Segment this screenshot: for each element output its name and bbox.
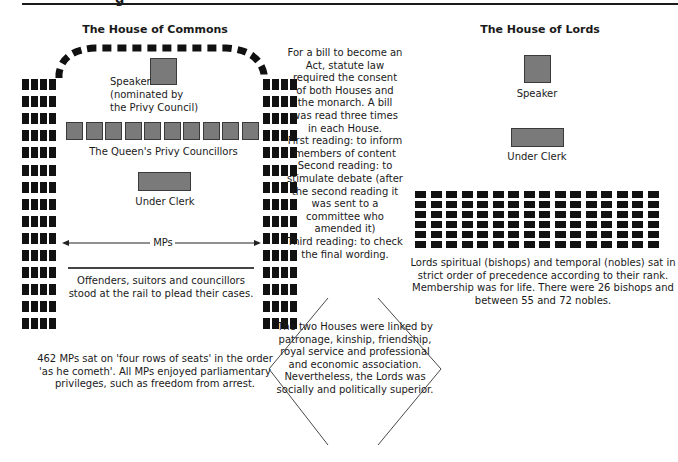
lord-seat xyxy=(493,231,504,238)
lord-seat xyxy=(648,231,659,238)
lord-seat xyxy=(462,231,473,238)
lord-seat xyxy=(570,191,581,198)
lord-seat xyxy=(477,211,488,218)
lord-seat xyxy=(601,221,612,228)
lord-seat xyxy=(601,201,612,208)
lord-seat xyxy=(617,231,628,238)
lord-seat xyxy=(462,241,473,248)
lord-seat xyxy=(555,221,566,228)
lord-seat xyxy=(648,191,659,198)
lord-seat xyxy=(539,231,550,238)
lord-seat xyxy=(586,211,597,218)
lord-seat xyxy=(555,191,566,198)
lord-seat xyxy=(632,231,643,238)
lord-seat xyxy=(415,211,426,218)
lord-seat xyxy=(493,211,504,218)
lord-seat xyxy=(415,201,426,208)
lord-seat xyxy=(539,201,550,208)
lord-seat xyxy=(617,221,628,228)
lord-seat xyxy=(648,221,659,228)
lord-seat xyxy=(493,191,504,198)
lord-seat xyxy=(431,201,442,208)
lord-seat xyxy=(431,191,442,198)
lord-seat xyxy=(524,191,535,198)
lords-under-clerk-seat xyxy=(511,128,564,147)
lord-seat xyxy=(555,211,566,218)
lord-seat xyxy=(632,221,643,228)
lord-seat xyxy=(462,201,473,208)
lords-speaker-label: Speaker xyxy=(497,88,577,101)
lord-seat xyxy=(570,231,581,238)
lord-seat xyxy=(617,241,628,248)
lord-seat xyxy=(446,211,457,218)
lord-seat xyxy=(586,221,597,228)
lord-seat xyxy=(601,231,612,238)
lord-seat xyxy=(601,191,612,198)
lord-seat xyxy=(446,231,457,238)
lord-seat xyxy=(462,191,473,198)
lord-seat xyxy=(508,231,519,238)
lord-seat xyxy=(524,241,535,248)
lord-seat xyxy=(570,211,581,218)
lord-seat xyxy=(648,211,659,218)
lord-seat xyxy=(431,211,442,218)
lord-seat xyxy=(493,201,504,208)
lord-seat xyxy=(508,221,519,228)
lords-speaker-seat xyxy=(524,55,551,83)
lord-seat xyxy=(524,211,535,218)
lord-seat xyxy=(446,221,457,228)
lords-under-clerk-label: Under Clerk xyxy=(487,151,587,164)
lord-seat xyxy=(648,201,659,208)
lord-seat xyxy=(446,241,457,248)
lord-seat xyxy=(570,201,581,208)
lord-seat xyxy=(539,241,550,248)
lord-seat xyxy=(477,201,488,208)
lord-seat xyxy=(446,201,457,208)
lord-seat xyxy=(493,221,504,228)
lord-seat xyxy=(586,191,597,198)
lord-seat xyxy=(524,201,535,208)
lord-seat xyxy=(462,211,473,218)
lord-seat xyxy=(446,191,457,198)
lord-seat xyxy=(415,191,426,198)
lord-seat xyxy=(477,191,488,198)
lord-seat xyxy=(462,221,473,228)
lord-seat xyxy=(586,241,597,248)
lord-seat xyxy=(431,221,442,228)
lord-seat xyxy=(539,221,550,228)
lord-seat xyxy=(415,231,426,238)
link-box-text: The two Houses were linked by patronage,… xyxy=(270,321,440,396)
lord-seat xyxy=(539,191,550,198)
lord-seat xyxy=(477,241,488,248)
lord-seat xyxy=(648,241,659,248)
lord-seat xyxy=(555,241,566,248)
lord-seat xyxy=(431,231,442,238)
lord-seat xyxy=(493,241,504,248)
lord-seat xyxy=(415,241,426,248)
lord-seat xyxy=(508,241,519,248)
lord-seat xyxy=(508,201,519,208)
lord-seat xyxy=(632,241,643,248)
lord-seat xyxy=(477,231,488,238)
lords-title: The House of Lords xyxy=(480,23,600,36)
lord-seat xyxy=(524,231,535,238)
lord-seat xyxy=(601,211,612,218)
lord-seat xyxy=(632,211,643,218)
lord-seat xyxy=(632,191,643,198)
lord-seat xyxy=(555,231,566,238)
lord-seat xyxy=(508,191,519,198)
lord-seat xyxy=(570,221,581,228)
lord-seat xyxy=(555,201,566,208)
lord-seat xyxy=(477,221,488,228)
lords-caption: Lords spiritual (bishops) and temporal (… xyxy=(408,257,678,307)
lord-seat xyxy=(617,201,628,208)
lord-seat xyxy=(586,231,597,238)
lord-seat xyxy=(415,221,426,228)
lord-seat xyxy=(617,211,628,218)
lord-seat xyxy=(524,221,535,228)
lord-seat xyxy=(617,191,628,198)
lord-seat xyxy=(431,241,442,248)
lord-seat xyxy=(632,201,643,208)
lord-seat xyxy=(586,201,597,208)
lord-seat xyxy=(539,211,550,218)
